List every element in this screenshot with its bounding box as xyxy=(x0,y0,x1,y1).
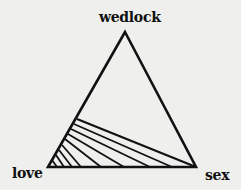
hatch-line xyxy=(56,155,64,167)
triangle-diagram xyxy=(0,0,241,190)
hatch-line xyxy=(59,150,72,167)
vertex-label-love: love xyxy=(12,166,43,180)
hatch-line xyxy=(71,129,150,167)
vertex-label-sex: sex xyxy=(205,168,229,182)
vertex-label-wedlock: wedlock xyxy=(99,10,161,24)
triangle-outline xyxy=(48,32,196,167)
